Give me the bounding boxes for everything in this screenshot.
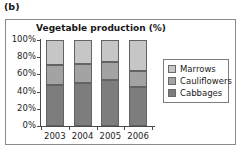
x-axis-tick — [69, 126, 70, 130]
bar-segment — [46, 85, 64, 126]
bar-stack — [74, 40, 92, 126]
y-axis-tick — [37, 109, 41, 110]
legend-item-label: Cabbages — [180, 88, 222, 98]
bar-segment — [129, 87, 147, 126]
y-axis-tick — [37, 92, 41, 93]
bar-segment — [74, 40, 92, 64]
y-axis-tick — [37, 74, 41, 75]
bar-segment — [101, 62, 119, 79]
plot-area — [41, 40, 152, 126]
x-axis-tick — [124, 126, 125, 130]
legend-item: Cauliflowers — [168, 75, 225, 87]
chart-title: Vegetable production (%) — [34, 23, 168, 34]
y-axis-tick-label: 80% — [0, 52, 36, 61]
bar-segment — [74, 83, 92, 126]
y-axis-tick-label: 100% — [0, 35, 36, 44]
x-axis-tick-label: 2006 — [122, 131, 154, 141]
legend-swatch-icon — [168, 77, 176, 85]
legend-swatch-icon — [168, 89, 176, 97]
y-axis-tick — [37, 57, 41, 58]
legend-item-label: Cauliflowers — [180, 76, 232, 86]
bar-segment — [101, 40, 119, 62]
legend-item: Marrows — [168, 63, 225, 75]
x-axis-tick — [41, 126, 42, 130]
bar-segment — [46, 40, 64, 65]
bar-stack — [129, 40, 147, 126]
chart-legend: MarrowsCauliflowersCabbages — [163, 59, 229, 103]
bar-stack — [101, 40, 119, 126]
y-axis-tick-label: 60% — [0, 69, 36, 78]
bar-segment — [129, 40, 147, 71]
y-axis-tick-label: 40% — [0, 87, 36, 96]
y-axis-tick-label: 20% — [0, 104, 36, 113]
bar-segment — [74, 64, 92, 83]
y-axis-tick — [37, 40, 41, 41]
bar-segment — [101, 80, 119, 126]
x-axis-tick — [152, 126, 153, 130]
bar-segment — [46, 65, 64, 85]
y-axis-labels: 0%20%40%60%80%100% — [0, 0, 36, 148]
legend-item-label: Marrows — [180, 64, 216, 74]
bar-stack — [46, 40, 64, 126]
y-axis-tick-label: 0% — [0, 121, 36, 130]
legend-swatch-icon — [168, 65, 176, 73]
x-axis-tick — [97, 126, 98, 130]
legend-item: Cabbages — [168, 87, 225, 99]
bar-segment — [129, 71, 147, 87]
figure-panel: (b) Vegetable production (%) 0%20%40%60%… — [0, 0, 241, 148]
